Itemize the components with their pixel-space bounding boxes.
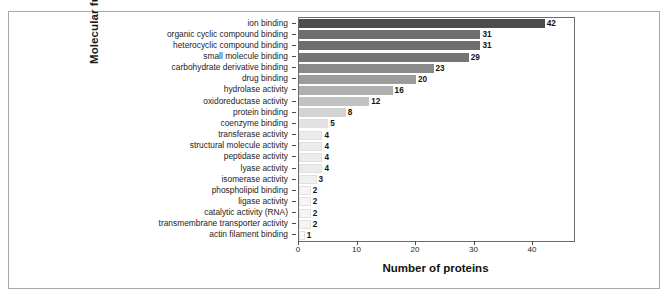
category-tick xyxy=(292,190,296,191)
bar-value-label: 2 xyxy=(313,197,318,206)
bar xyxy=(299,64,434,73)
category-tick xyxy=(292,56,296,57)
category-label: phospholipid binding xyxy=(120,186,288,195)
category-tick xyxy=(292,67,296,68)
x-tick-label: 0 xyxy=(296,245,300,254)
category-tick xyxy=(292,201,296,202)
category-label: peptidase activity xyxy=(120,152,288,161)
category-tick xyxy=(292,78,296,79)
bar-value-label: 8 xyxy=(348,108,353,117)
category-label: ion binding xyxy=(120,19,288,28)
category-tick xyxy=(292,34,296,35)
category-tick xyxy=(292,101,296,102)
category-tick xyxy=(292,23,296,24)
category-tick xyxy=(292,234,296,235)
bar xyxy=(299,19,545,28)
bar xyxy=(299,41,480,50)
category-tick xyxy=(292,123,296,124)
bar-value-label: 20 xyxy=(418,75,427,84)
category-label: protein binding xyxy=(120,108,288,117)
bar-value-label: 4 xyxy=(324,142,329,151)
category-label: structural molecule activity xyxy=(120,141,288,150)
bar-value-label: 12 xyxy=(371,97,380,106)
bar-value-label: 4 xyxy=(324,153,329,162)
x-axis-ticks: 010203040 xyxy=(298,241,578,249)
y-axis-title: Molecular function xyxy=(84,0,104,92)
bar-value-label: 4 xyxy=(324,131,329,140)
category-axis-labels: ion bindingorganic cyclic compound bindi… xyxy=(120,17,288,240)
bar xyxy=(299,153,322,162)
bar xyxy=(299,197,311,206)
bar xyxy=(299,30,480,39)
category-label: ligase activity xyxy=(120,197,288,206)
bar xyxy=(299,97,369,106)
bar-value-label: 2 xyxy=(313,220,318,229)
bar xyxy=(299,53,469,62)
bar-value-label: 42 xyxy=(547,19,556,28)
bar xyxy=(299,164,322,173)
bar-value-label: 1 xyxy=(307,231,312,240)
category-tick xyxy=(292,168,296,169)
category-label: isomerase activity xyxy=(120,175,288,184)
category-label: organic cyclic compound binding xyxy=(120,30,288,39)
x-axis-title: Number of proteins xyxy=(298,262,573,274)
category-tick xyxy=(292,45,296,46)
x-tick-label: 10 xyxy=(352,245,361,254)
bar xyxy=(299,108,346,117)
category-label: carbohydrate derivative binding xyxy=(120,63,288,72)
category-tick xyxy=(292,112,296,113)
bar-value-label: 2 xyxy=(313,209,318,218)
plot-area: 4231312923201612854444322221 xyxy=(298,17,575,242)
category-tick xyxy=(292,212,296,213)
bar xyxy=(299,220,311,229)
category-label: catalytic activity (RNA) xyxy=(120,208,288,217)
bar-value-label: 4 xyxy=(324,164,329,173)
bar xyxy=(299,86,393,95)
bar xyxy=(299,142,322,151)
bar xyxy=(299,119,328,128)
bar-value-label: 3 xyxy=(319,175,324,184)
figure-canvas: Molecular function ion bindingorganic cy… xyxy=(0,0,667,293)
bar xyxy=(299,131,322,140)
category-label: hydrolase activity xyxy=(120,85,288,94)
category-tick xyxy=(292,145,296,146)
category-tick xyxy=(292,134,296,135)
category-label: actin filament binding xyxy=(120,230,288,239)
category-label: transmembrane transporter activity xyxy=(120,219,288,228)
bar-value-label: 16 xyxy=(395,86,404,95)
category-tick xyxy=(292,223,296,224)
category-tick xyxy=(292,89,296,90)
category-tick xyxy=(292,156,296,157)
category-label: small molecule binding xyxy=(120,52,288,61)
bar-value-label: 31 xyxy=(482,41,491,50)
category-label: drug binding xyxy=(120,74,288,83)
bar xyxy=(299,186,311,195)
bar-value-label: 29 xyxy=(471,53,480,62)
bar-value-label: 23 xyxy=(436,64,445,73)
bar xyxy=(299,175,317,184)
bar-value-label: 2 xyxy=(313,186,318,195)
category-label: transferase activity xyxy=(120,130,288,139)
category-label: oxidoreductase activity xyxy=(120,97,288,106)
x-tick-label: 20 xyxy=(411,245,420,254)
bar-value-label: 31 xyxy=(482,30,491,39)
bar xyxy=(299,231,305,240)
category-label: lyase activity xyxy=(120,164,288,173)
x-tick-label: 30 xyxy=(469,245,478,254)
bar xyxy=(299,75,416,84)
x-tick-label: 40 xyxy=(528,245,537,254)
bar xyxy=(299,209,311,218)
category-label: heterocyclic compound binding xyxy=(120,41,288,50)
bar-value-label: 5 xyxy=(330,119,335,128)
category-tick xyxy=(292,179,296,180)
category-label: coenzyme binding xyxy=(120,119,288,128)
